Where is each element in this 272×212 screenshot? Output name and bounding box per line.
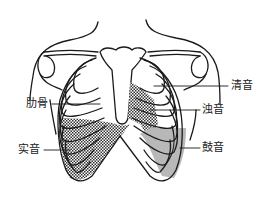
label-dullness: 浊音 [202,104,224,116]
clavicle-left [44,51,98,53]
label-resonance: 清音 [231,80,253,92]
clavicle-right [148,51,200,53]
label-flatness: 实音 [18,144,40,156]
body-outline-right [146,20,220,104]
label-tympany: 鼓音 [202,142,224,154]
label-rib: 肋骨 [26,98,48,110]
